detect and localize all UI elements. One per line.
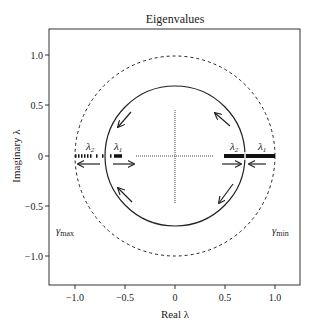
chart-title: Eigenvalues <box>146 12 205 26</box>
lambda2-left-label: λ2 <box>85 140 95 154</box>
x-tick-label: −1.0 <box>66 292 84 303</box>
y-tick-label: 0.5 <box>31 100 44 111</box>
y-tick-label: −1.0 <box>25 251 43 262</box>
y-tick-label: −0.5 <box>25 201 43 212</box>
x-axis <box>75 285 275 289</box>
x-tick-label: 1.0 <box>269 292 282 303</box>
y-axis <box>45 55 49 256</box>
x-tick-label: 0.5 <box>219 292 232 303</box>
y-axis-label: Imaginary λ <box>10 129 22 183</box>
y-tick-label: 0 <box>38 151 43 162</box>
x-axis-label: Real λ <box>161 308 190 320</box>
x-tick-label: 0 <box>173 292 178 303</box>
arrow-upper-right <box>215 113 230 126</box>
lambda2-right-label: λ2 <box>229 140 239 154</box>
arrow-lower-right <box>219 184 233 203</box>
gamma-min-label: γmin <box>272 224 289 238</box>
lambda1-left-label: λ1 <box>113 140 122 154</box>
x-tick-label: −0.5 <box>116 292 134 303</box>
eigenvalue-chart: Eigenvalues −1.0 −0.5 0 0.5 1.0 Real λ 1… <box>0 0 315 331</box>
arrow-upper-left <box>118 112 131 127</box>
gamma-max-label: γmax <box>56 224 74 238</box>
lambda1-right-label: λ1 <box>257 140 266 154</box>
y-tick-label: 1.0 <box>31 50 44 61</box>
